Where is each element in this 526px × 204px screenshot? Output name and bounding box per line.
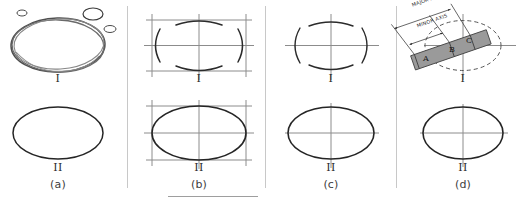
panel-d-step-I-label: I — [448, 72, 478, 85]
panel-b-step-II-label: II — [184, 161, 214, 174]
panel-c-caption: (c) — [311, 178, 351, 191]
practice-ellipse-2 — [83, 8, 103, 20]
panel-c-step-I-label: I — [316, 72, 346, 85]
ellipse-sketching-figure: I II (a) I II (b) I II (c) I II (d) MAJO… — [0, 0, 526, 204]
panel-d-step-II-label: II — [448, 161, 478, 174]
finished-ellipse-a — [13, 107, 103, 159]
trammel-label-B: B — [446, 45, 458, 54]
panel-b-step-I — [144, 14, 254, 80]
trammel-label-C: C — [463, 36, 475, 45]
construction-rectangle-b2 — [144, 100, 254, 169]
extension-line-left — [391, 20, 414, 58]
practice-ellipse-3 — [104, 26, 116, 33]
panel-b-caption: (b) — [179, 178, 219, 191]
panel-a-step-II-label: II — [43, 161, 73, 174]
panel-dividers — [128, 6, 397, 188]
panel-c-step-I — [285, 14, 379, 80]
trammel-label-A: A — [420, 54, 432, 63]
minor-axis-dimension-line — [410, 33, 443, 44]
panel-a-step-II — [13, 107, 103, 159]
extension-line-right — [451, 1, 470, 38]
panel-c-step-II — [285, 103, 379, 168]
panel-d-caption: (d) — [443, 178, 483, 191]
panel-c-step-II-label: II — [316, 161, 346, 174]
panel-d-step-II — [420, 104, 508, 167]
panel-a-step-I — [10, 8, 116, 74]
panel-d-step-I — [391, 1, 516, 80]
panel-a-caption: (a) — [38, 178, 78, 191]
panel-a-step-I-label: I — [43, 72, 73, 85]
panel-b-step-II — [144, 100, 254, 169]
practice-ellipse-1 — [17, 10, 27, 16]
centerlines-d2 — [420, 104, 508, 167]
panel-b-step-I-label: I — [184, 72, 214, 85]
freehand-overshoot-stroke — [16, 52, 99, 71]
